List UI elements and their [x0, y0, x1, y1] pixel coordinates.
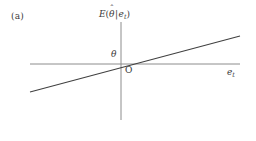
intercept-label-theta: θ [111, 50, 116, 59]
y-axis-label-lead: E [99, 9, 106, 19]
origin-label: O [125, 66, 132, 75]
x-axis-label-e-subscript: t [232, 71, 235, 79]
y-axis-label: E(ˆθ|et) [99, 10, 130, 20]
figure-panel-a: (a) E(ˆθ|et) et θ O [0, 0, 256, 141]
x-axis-label: et [227, 68, 235, 78]
theta-hat-group: ˆθ [109, 10, 114, 19]
y-axis-label-close-paren: ) [127, 9, 131, 19]
theta-hat-mark: ˆ [109, 5, 114, 14]
